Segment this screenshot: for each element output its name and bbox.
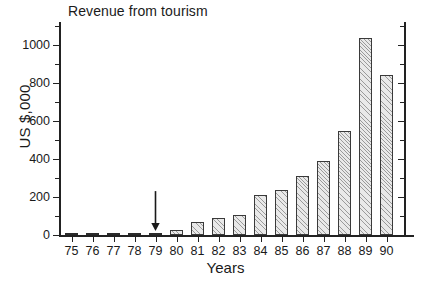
chart-figure: Revenue from tourism US $,000 0200400600…	[0, 0, 421, 284]
x-tick-mark	[93, 236, 94, 242]
right-tick-minor	[400, 26, 405, 27]
x-tick-label: 85	[275, 244, 289, 258]
x-tick-label: 77	[107, 244, 121, 258]
bar	[317, 161, 331, 235]
y-tick-mark	[53, 159, 60, 160]
right-tick-mark	[398, 83, 405, 84]
x-tick-mark	[72, 236, 73, 242]
right-tick-mark	[398, 45, 405, 46]
bar	[128, 233, 142, 235]
right-tick-minor	[400, 64, 405, 65]
x-tick-label: 87	[317, 244, 331, 258]
y-tick-label: 400	[29, 152, 50, 166]
x-tick-mark	[324, 236, 325, 242]
bar	[86, 233, 100, 235]
bar	[359, 38, 373, 235]
y-tick-minor	[55, 26, 60, 27]
x-tick-label: 84	[254, 244, 268, 258]
x-tick-mark	[114, 236, 115, 242]
x-tick-label: 79	[149, 244, 163, 258]
x-tick-mark	[345, 236, 346, 242]
x-tick-label: 75	[65, 244, 79, 258]
x-tick-label: 80	[170, 244, 184, 258]
bar	[254, 195, 268, 235]
y-tick-label: 1000	[22, 38, 50, 52]
bar	[149, 233, 163, 235]
y-tick-mark	[53, 197, 60, 198]
x-tick-mark	[366, 236, 367, 242]
y-tick-label: 600	[29, 114, 50, 128]
right-tick-minor	[400, 216, 405, 217]
y-tick-minor	[55, 216, 60, 217]
y-tick-minor	[55, 64, 60, 65]
bar	[338, 131, 352, 235]
x-tick-label: 86	[296, 244, 310, 258]
y-tick-minor	[55, 178, 60, 179]
bar	[191, 222, 205, 235]
down-arrow-icon	[59, 22, 406, 236]
y-tick-label: 800	[29, 76, 50, 90]
x-tick-mark	[387, 236, 388, 242]
right-tick-minor	[400, 178, 405, 179]
y-tick-mark	[53, 121, 60, 122]
y-tick-minor	[55, 102, 60, 103]
bar	[107, 233, 121, 235]
x-tick-label: 78	[128, 244, 142, 258]
y-tick-minor	[55, 140, 60, 141]
x-tick-mark	[303, 236, 304, 242]
x-tick-label: 90	[380, 244, 394, 258]
x-tick-mark	[282, 236, 283, 242]
y-tick-label: 200	[29, 190, 50, 204]
bar	[65, 233, 79, 235]
x-tick-label: 82	[212, 244, 226, 258]
bar	[233, 215, 247, 235]
bar	[296, 176, 310, 235]
x-axis-line	[59, 235, 414, 237]
x-tick-mark	[261, 236, 262, 242]
bar	[275, 190, 289, 235]
right-tick-mark	[398, 159, 405, 160]
bar	[212, 218, 226, 235]
y-tick-mark	[53, 235, 60, 236]
right-axis-line	[404, 22, 406, 237]
bar	[380, 75, 394, 235]
x-axis-title: Years	[0, 259, 421, 276]
right-tick-mark	[398, 235, 405, 236]
y-tick-label: 0	[43, 228, 50, 242]
y-axis-line	[59, 22, 61, 237]
x-tick-label: 76	[86, 244, 100, 258]
right-tick-mark	[398, 121, 405, 122]
x-tick-mark	[135, 236, 136, 242]
x-tick-mark	[219, 236, 220, 242]
right-tick-minor	[400, 102, 405, 103]
right-tick-minor	[400, 140, 405, 141]
x-tick-label: 88	[338, 244, 352, 258]
x-tick-label: 89	[359, 244, 373, 258]
x-tick-mark	[156, 236, 157, 242]
right-tick-mark	[398, 197, 405, 198]
x-tick-mark	[198, 236, 199, 242]
x-tick-mark	[240, 236, 241, 242]
x-tick-label: 81	[191, 244, 205, 258]
y-tick-mark	[53, 45, 60, 46]
y-tick-mark	[53, 83, 60, 84]
bar	[170, 230, 184, 235]
x-tick-mark	[177, 236, 178, 242]
x-tick-label: 83	[233, 244, 247, 258]
x-axis-title-text: Years	[177, 259, 245, 276]
plot-area: 02004006008001000 7576777879808182838485…	[59, 22, 406, 236]
chart-title: Revenue from tourism	[68, 3, 208, 19]
